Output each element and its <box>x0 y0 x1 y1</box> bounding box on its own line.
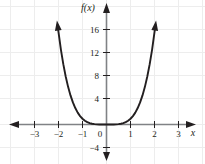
y-tick-label-16: 16 <box>90 25 100 35</box>
x-tick-label--1: −1 <box>78 129 88 139</box>
graph-canvas: −3 −2 −1 0 1 2 3 16 12 8 4 −4 f(x) x <box>0 0 205 164</box>
y-tick-label-4: 4 <box>95 94 100 104</box>
y-axis-label: f(x) <box>81 2 96 14</box>
x-tick-label--2: −2 <box>54 129 64 139</box>
x-tick-label-1: 1 <box>128 129 133 139</box>
y-tick-label-8: 8 <box>95 71 100 81</box>
y-tick-label--4: −4 <box>89 143 99 153</box>
y-axis <box>103 3 110 161</box>
x-tick-label-2: 2 <box>152 129 157 139</box>
x-tick-label-0: 0 <box>98 129 103 139</box>
x-axis-label: x <box>190 127 196 138</box>
y-tick-label-12: 12 <box>90 48 99 58</box>
grid-lines <box>0 0 205 164</box>
function-graph: −3 −2 −1 0 1 2 3 16 12 8 4 −4 f(x) x <box>0 0 205 164</box>
x-tick-label-3: 3 <box>176 129 181 139</box>
x-tick-label--3: −3 <box>30 129 40 139</box>
